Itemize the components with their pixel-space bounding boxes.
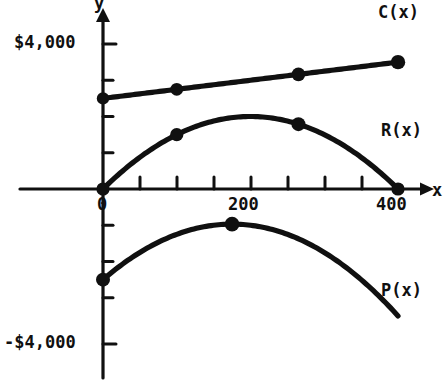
profit-curve-p [103, 224, 398, 316]
profit-curve-label: P(x) [381, 282, 422, 299]
point-c-endpoint [391, 55, 405, 69]
y-axis-name-label: y [94, 0, 104, 12]
cost-curve-label: C(x) [378, 4, 419, 21]
point-c-r-cross-right [292, 68, 306, 82]
cost-curve-c [103, 62, 398, 98]
y-axis-tick-label-positive-4000: $4,000 [14, 34, 75, 51]
point-p-right-zero-crossing [96, 273, 110, 287]
x-axis-tick-label-0: 0 [97, 196, 107, 213]
point-p-endpoint [225, 217, 240, 232]
point-c-r-cross-left [170, 83, 183, 96]
x-axis-tick-label-200: 200 [228, 196, 259, 213]
x-axis-tick-label-400: 400 [376, 196, 407, 213]
x-axis-name-label: x [432, 182, 442, 199]
x-tick-marks [140, 177, 362, 189]
point-r-endpoint [170, 128, 183, 141]
revenue-curve-label: R(x) [381, 122, 422, 139]
point-c-y-intercept [97, 92, 109, 104]
point-p-y-intercept [291, 117, 305, 131]
y-axis-tick-label-negative-4000: -$4,000 [4, 334, 76, 351]
graph-canvas [0, 0, 447, 380]
graph-figure: $4,000 -$4,000 0 200 400 y x C(x) R(x) P… [0, 0, 447, 380]
